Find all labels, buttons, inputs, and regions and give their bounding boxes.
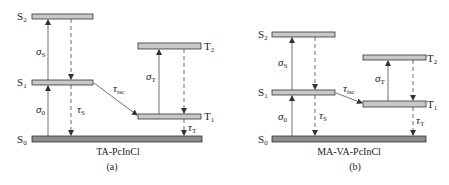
label-tau-isc: τisc — [343, 82, 355, 96]
label-s2: S2 — [258, 28, 268, 42]
label-t1: T1 — [204, 110, 215, 124]
label-s2: S2 — [17, 10, 27, 24]
label-s1: S1 — [258, 86, 268, 100]
label-sigma-t: σT — [375, 72, 385, 86]
panel-a: S2 S1 S0 T2 T1 σS σ0 τS τisc σT τT TA-Pc… — [17, 10, 215, 173]
panel-caption-a: (a) — [106, 161, 117, 173]
label-sigma-s: σS — [36, 45, 45, 59]
label-s1: S1 — [17, 76, 27, 90]
label-s0: S0 — [258, 133, 268, 147]
panel-b: S2 S1 S0 T2 T1 σS σ0 τS τisc σT τT MA-VA… — [258, 28, 438, 173]
label-tau-isc: τisc — [113, 82, 125, 96]
level-s1 — [272, 90, 335, 95]
label-sigma-0: σ0 — [36, 103, 45, 117]
level-s0 — [32, 136, 202, 142]
level-t1 — [138, 114, 201, 119]
label-sigma-t: σT — [146, 70, 156, 84]
level-s0 — [272, 136, 426, 142]
level-s1 — [32, 80, 93, 85]
panel-caption-b: (b) — [349, 161, 361, 173]
label-s0: S0 — [17, 133, 27, 147]
label-t1: T1 — [427, 98, 438, 112]
label-tau-s: τS — [77, 103, 85, 117]
label-tau-t: τT — [188, 121, 197, 135]
label-t2: T2 — [204, 40, 215, 54]
level-t2 — [138, 43, 201, 49]
molecule-name-a: TA-PcInCl — [96, 146, 140, 157]
label-t2: T2 — [427, 52, 438, 66]
label-tau-s: τS — [319, 109, 327, 123]
level-s2 — [272, 32, 335, 37]
label-sigma-0: σ0 — [278, 110, 287, 124]
energy-level-diagrams: S2 S1 S0 T2 T1 σS σ0 τS τisc σT τT TA-Pc… — [0, 0, 449, 185]
level-t2 — [363, 55, 426, 60]
label-tau-t: τT — [416, 114, 425, 128]
molecule-name-b: MA-VA-PcInCl — [317, 146, 381, 157]
label-sigma-s: σS — [278, 56, 287, 70]
level-t1 — [363, 101, 426, 107]
level-s2 — [32, 14, 93, 19]
